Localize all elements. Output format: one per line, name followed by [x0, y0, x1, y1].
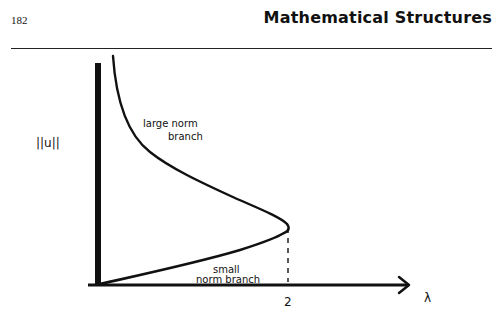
upper-branch-label-line1: large norm — [143, 118, 198, 129]
y-axis — [95, 63, 101, 285]
lower-branch-label-line2: norm branch — [196, 274, 260, 285]
y-axis-label: ||u|| — [36, 136, 60, 150]
x-axis-label: λ — [424, 291, 431, 305]
x-tick-label-2: 2 — [284, 295, 292, 309]
bifurcation-diagram: ||u|| large norm branch small norm branc… — [0, 0, 500, 314]
upper-branch-label-line2: branch — [168, 131, 203, 142]
